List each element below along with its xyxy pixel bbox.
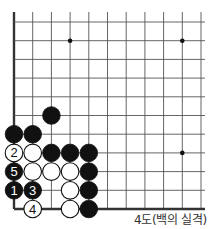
star-point xyxy=(180,151,185,156)
white-stone-2: 2 xyxy=(5,144,23,162)
white-stone xyxy=(43,163,61,181)
star-point xyxy=(68,38,73,43)
diagram-caption: 4도(백의 실격) xyxy=(134,210,207,227)
black-stone xyxy=(80,200,98,218)
black-stone xyxy=(24,125,42,143)
grid-lines xyxy=(14,12,205,209)
move-number: 4 xyxy=(29,202,36,217)
black-stone xyxy=(43,107,61,125)
black-stone xyxy=(5,125,23,143)
black-stone-1: 1 xyxy=(5,182,23,200)
black-stone xyxy=(80,144,98,162)
black-stone xyxy=(61,144,79,162)
go-board: 25134 xyxy=(0,0,215,229)
white-stone xyxy=(61,200,79,218)
move-number: 1 xyxy=(10,183,17,198)
white-stone-4: 4 xyxy=(24,200,42,218)
black-stone xyxy=(80,163,98,181)
move-number: 5 xyxy=(10,164,17,179)
black-stone xyxy=(43,144,61,162)
white-stone xyxy=(61,182,79,200)
black-stone-5: 5 xyxy=(5,163,23,181)
white-stone xyxy=(61,163,79,181)
white-stone xyxy=(24,144,42,162)
star-point xyxy=(180,38,185,43)
black-stone xyxy=(80,182,98,200)
white-stone xyxy=(24,163,42,181)
black-stone-3: 3 xyxy=(24,182,42,200)
move-number: 2 xyxy=(10,145,17,160)
move-number: 3 xyxy=(29,183,36,198)
